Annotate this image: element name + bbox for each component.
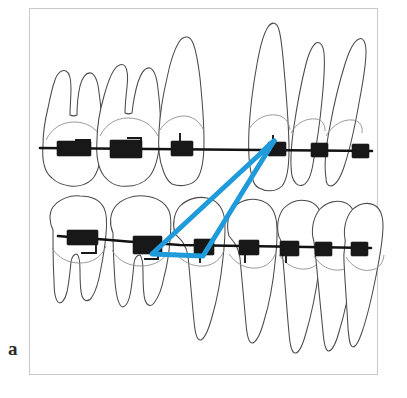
tooth-lower-second-molar: [50, 196, 107, 303]
tooth-upper-second-premolar: [159, 37, 204, 186]
tooth-upper-first-molar: [97, 65, 161, 187]
tooth-upper-lateral-incisor: [291, 42, 324, 185]
bracket-upper-lateral-incisor[interactable]: [311, 143, 328, 157]
tooth-lower-first-premolar: [228, 199, 277, 343]
bracket-lower-central-incisor[interactable]: [351, 242, 368, 256]
bracket-upper-central-incisor[interactable]: [352, 144, 369, 158]
tooth-upper-canine: [249, 23, 289, 191]
tooth-lower-central-incisor: [344, 203, 383, 347]
tooth-upper-central-incisor: [325, 39, 366, 186]
tooth-lower-second-premolar: [174, 197, 225, 340]
orthodontic-diagram: [0, 0, 407, 398]
bracket-lower-lateral-incisor[interactable]: [315, 242, 332, 256]
panel-label: a: [8, 339, 18, 358]
lower-arch-teeth: [50, 196, 384, 353]
bracket-upper-first-molar[interactable]: [110, 138, 142, 158]
upper-arch-teeth: [43, 23, 366, 191]
bracket-upper-second-molar[interactable]: [57, 140, 91, 156]
figure-panel: a: [0, 0, 407, 398]
